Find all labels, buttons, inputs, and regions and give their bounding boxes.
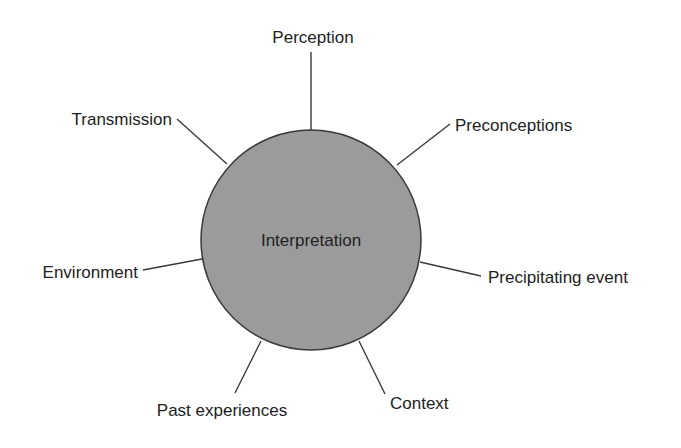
- connector-precipitating-event: [420, 262, 481, 276]
- center-label: Interpretation: [261, 231, 361, 250]
- node-label-precipitating-event: Precipitating event: [488, 268, 628, 287]
- node-label-context: Context: [390, 394, 449, 413]
- node-label-past-experiences: Past experiences: [157, 401, 287, 420]
- node-label-environment: Environment: [43, 263, 139, 282]
- node-label-transmission: Transmission: [72, 110, 172, 129]
- connector-context: [359, 341, 385, 394]
- node-label-perception: Perception: [272, 28, 353, 47]
- connector-preconceptions: [397, 124, 450, 165]
- connector-environment: [143, 259, 202, 270]
- interpretation-diagram: Interpretation PerceptionTransmissionPre…: [0, 0, 681, 448]
- connector-past-experiences: [235, 341, 261, 393]
- node-label-preconceptions: Preconceptions: [455, 116, 572, 135]
- connector-transmission: [177, 119, 227, 164]
